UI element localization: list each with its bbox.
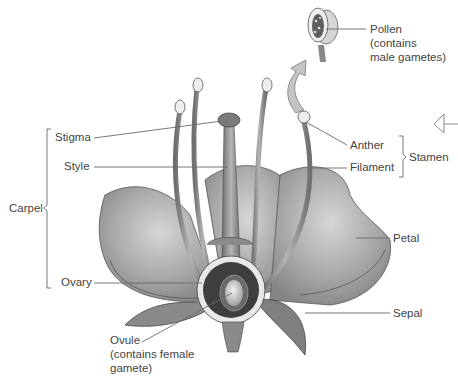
label-ovule: Ovule (110, 334, 140, 347)
label-stamen: Stamen (409, 151, 449, 164)
enlarged-anther (308, 8, 338, 62)
label-stigma: Stigma (55, 131, 91, 144)
label-style: Style (64, 160, 90, 173)
carpel-bracket (44, 129, 51, 288)
label-ovule-note-1: (contains female (110, 348, 194, 361)
back-arrow-icon[interactable] (434, 114, 458, 133)
ovary (197, 256, 265, 352)
enlargement-arrow-icon (288, 60, 306, 113)
label-pollen-note-2: male gametes) (370, 51, 446, 64)
label-pollen: Pollen (370, 23, 402, 36)
label-petal: Petal (393, 232, 419, 245)
label-ovule-note-2: gamete) (110, 362, 152, 375)
label-sepal: Sepal (393, 307, 422, 320)
label-anther: Anther (350, 139, 384, 152)
label-pollen-note-1: (contains (370, 37, 417, 50)
label-filament: Filament (350, 161, 394, 174)
label-carpel: Carpel (9, 202, 43, 215)
stamen-bracket (399, 136, 406, 177)
label-ovary: Ovary (61, 276, 92, 289)
